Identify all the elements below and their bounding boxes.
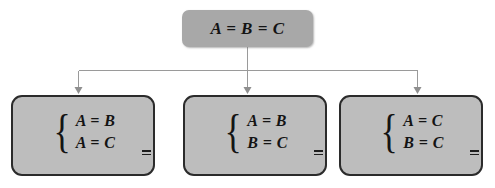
equation-system: { A = B B = C [222, 111, 288, 152]
equation-system: { A = C B = C [378, 111, 444, 152]
equation-line: B = C [403, 133, 443, 153]
equation-line: A = C [76, 133, 116, 153]
corner-tick-mark [470, 150, 479, 157]
corner-tick-mark [314, 150, 323, 157]
arrowhead-right [414, 87, 422, 94]
left-brace-icon: { [53, 113, 70, 151]
corner-tick-mark [142, 150, 151, 157]
arrowhead-center [244, 87, 252, 94]
equation-line: A = B [76, 111, 116, 131]
equation-list: A = C B = C [403, 111, 443, 152]
arrowhead-left [75, 87, 83, 94]
equation-line: B = C [247, 133, 287, 153]
root-node: A = B = C [182, 10, 313, 47]
equation-line: A = C [403, 111, 443, 131]
equation-list: A = B B = C [247, 111, 287, 152]
leaf-node-pair-ab-bc: { A = B B = C [183, 95, 327, 176]
arrowheads [75, 87, 422, 94]
equation-line: A = B [247, 111, 287, 131]
diagram-canvas: A = B = C { A = B A = C { A = B B = C { … [0, 0, 495, 188]
left-brace-icon: { [381, 113, 398, 151]
leaf-node-pair-ac-bc: { A = C B = C [339, 95, 483, 176]
equation-list: A = B A = C [76, 111, 116, 152]
equation-system: { A = B A = C [51, 111, 116, 152]
root-node-label: A = B = C [211, 19, 285, 39]
leaf-node-pair-ab-ac: { A = B A = C [11, 95, 155, 176]
left-brace-icon: { [225, 113, 242, 151]
